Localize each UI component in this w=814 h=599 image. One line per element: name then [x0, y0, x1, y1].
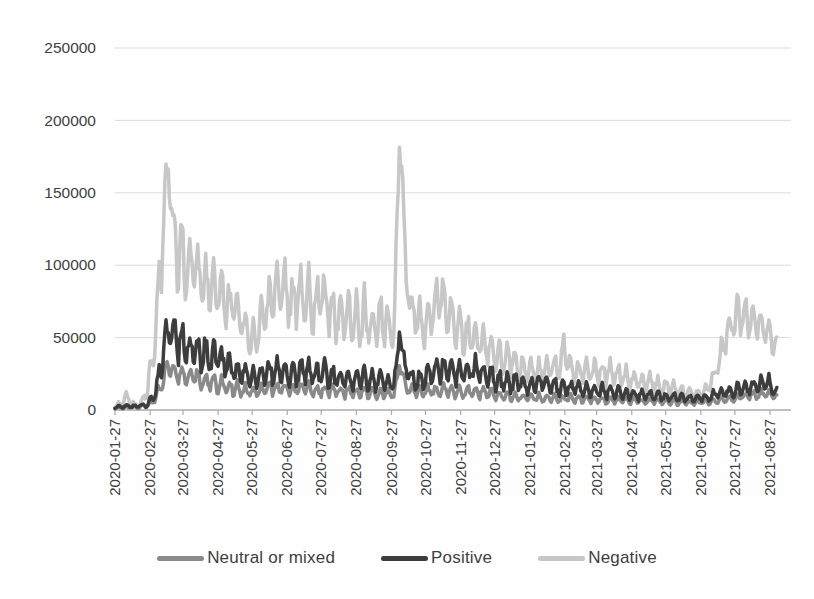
x-axis-tick-label: 2020-12-27: [486, 419, 503, 496]
legend-swatch-neutral: [157, 556, 204, 561]
x-axis-tick-label: 2020-09-27: [383, 419, 400, 496]
x-axis-tick-label: 2021-07-27: [726, 419, 743, 496]
x-axis-tick-label: 2020-04-27: [209, 419, 226, 496]
x-axis-tick-label: 2021-05-27: [657, 419, 674, 496]
y-axis-tick-label: 250000: [44, 39, 96, 56]
y-axis-tick-label: 150000: [44, 184, 96, 201]
x-axis-tick-label: 2021-06-27: [692, 419, 709, 496]
x-axis-tick-label: 2020-05-27: [243, 419, 260, 496]
legend-item-neutral: Neutral or mixed: [157, 548, 335, 568]
legend-label-neutral: Neutral or mixed: [207, 548, 335, 568]
x-axis-tick-label: 2020-02-27: [141, 419, 158, 496]
sentiment-time-series-chart: 0500001000001500002000002500002020-01-27…: [0, 0, 814, 599]
legend-label-negative: Negative: [588, 548, 657, 568]
legend-item-negative: Negative: [538, 548, 657, 568]
x-axis-tick-label: 2020-06-27: [278, 419, 295, 496]
legend-swatch-negative: [538, 556, 585, 561]
x-axis-tick-label: 2020-07-27: [312, 419, 329, 496]
chart-legend: Neutral or mixed Positive Negative: [0, 544, 814, 572]
legend-label-positive: Positive: [431, 548, 492, 568]
x-axis-tick-label: 2020-03-27: [174, 419, 191, 496]
y-axis-tick-label: 50000: [53, 329, 96, 346]
y-axis-tick-label: 100000: [44, 256, 96, 273]
x-axis-tick-label: 2020-01-27: [106, 419, 123, 496]
x-axis-tick-label: 2020-08-27: [347, 419, 364, 496]
x-axis-tick-label: 2020-11-27: [452, 419, 469, 495]
x-axis-tick-label: 2021-03-27: [588, 419, 605, 496]
y-axis-tick-label: 0: [87, 401, 96, 418]
x-axis-tick-label: 2021-08-27: [761, 419, 778, 496]
legend-item-positive: Positive: [381, 548, 492, 568]
x-axis-tick-label: 2021-04-27: [623, 419, 640, 496]
x-axis-tick-label: 2021-01-27: [521, 419, 538, 496]
chart-page: 0500001000001500002000002500002020-01-27…: [0, 0, 814, 599]
legend-swatch-positive: [381, 556, 428, 561]
y-axis-tick-label: 200000: [44, 112, 96, 129]
x-axis-tick-label: 2021-02-27: [556, 419, 573, 496]
x-axis-tick-label: 2020-10-27: [417, 419, 434, 496]
